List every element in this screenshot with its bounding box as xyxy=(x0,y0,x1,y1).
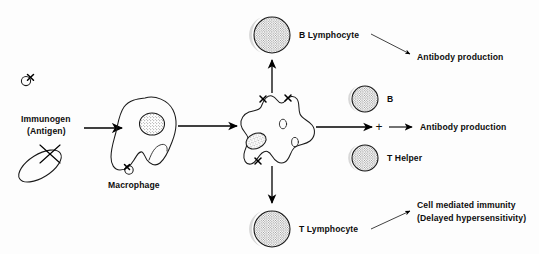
t-helper-cell xyxy=(348,145,378,171)
diagram-canvas: Immunogen (Antigen) Macrophage xyxy=(0,0,539,254)
b-cell xyxy=(348,86,378,112)
b-lymphocyte-label: B Lymphocyte xyxy=(299,30,359,40)
antibody-production-top-label: Antibody production xyxy=(417,52,503,62)
cell-mediated-immunity-line2: (Delayed hypersensitivity) xyxy=(417,213,526,223)
immune-response-diagram: Immunogen (Antigen) Macrophage xyxy=(0,0,539,254)
macrophage-label: Macrophage xyxy=(108,180,160,190)
b-cell-label: B xyxy=(387,94,393,104)
t-lymphocyte-cell xyxy=(249,211,290,247)
cell-mediated-immunity-line1: Cell mediated immunity xyxy=(417,200,516,210)
antibody-production-mid-label: Antibody production xyxy=(420,122,506,132)
t-lymphocyte-label: T Lymphocyte xyxy=(299,224,358,234)
immunogen-label-line2: (Antigen) xyxy=(27,126,66,136)
plus-sign: + xyxy=(375,120,382,134)
macrophage-nucleus xyxy=(140,113,165,135)
t-helper-label: T Helper xyxy=(387,153,423,163)
immunogen-label-line1: Immunogen xyxy=(21,114,71,124)
b-lymphocyte-cell xyxy=(249,17,290,53)
